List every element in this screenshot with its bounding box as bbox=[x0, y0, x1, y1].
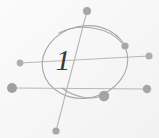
node-right-lower[interactable] bbox=[143, 85, 151, 93]
edges-group bbox=[12, 11, 149, 131]
node-left-lower[interactable] bbox=[7, 83, 17, 93]
edge-left-lower-to-right-lower bbox=[12, 88, 147, 89]
node-bottom[interactable] bbox=[52, 127, 59, 134]
node-arc-upper-end[interactable] bbox=[121, 42, 128, 49]
circle-group bbox=[35, 18, 134, 106]
node-left-upper[interactable] bbox=[17, 60, 24, 67]
node-top[interactable] bbox=[83, 7, 91, 15]
sketch-svg: 1 bbox=[0, 0, 159, 138]
vertex-circle bbox=[35, 18, 134, 106]
node-arc-lower-end[interactable] bbox=[99, 91, 109, 101]
sketch-canvas: 1 bbox=[0, 0, 159, 138]
arc-upper-right bbox=[59, 27, 122, 43]
vertex-label: 1 bbox=[56, 43, 71, 76]
node-right-upper[interactable] bbox=[145, 52, 152, 59]
edge-left-upper-to-right-upper bbox=[20, 56, 149, 63]
